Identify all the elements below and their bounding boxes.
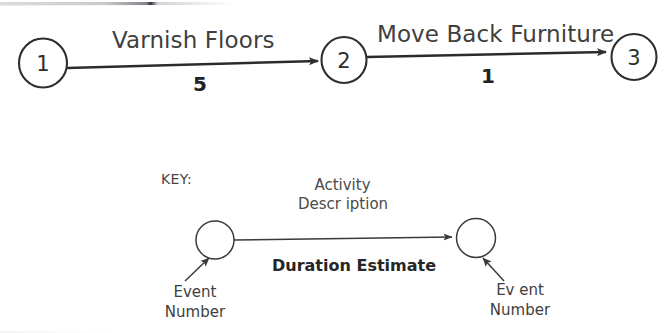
key-heading: KEY: — [161, 172, 192, 187]
legend-left-event-number-line2: Number — [158, 305, 232, 321]
legend-left-event-number-line1: Event — [166, 285, 224, 301]
legend-duration-estimate: Duration Estimate — [272, 258, 436, 275]
activity-label-move-back-furniture: Move Back Furniture — [377, 23, 614, 47]
duration-label-move-back-furniture: 1 — [481, 66, 495, 87]
legend-right-event-number-line1: Ev ent — [489, 283, 551, 299]
legend-left-event-pointer — [185, 258, 209, 281]
activity-arrow-2-to-3[interactable] — [367, 52, 606, 57]
legend-activity-arrow — [234, 237, 452, 240]
legend-right-event-pointer — [483, 258, 504, 281]
activity-arrow-1-to-2[interactable] — [67, 61, 318, 68]
legend-right-event-circle — [457, 219, 496, 258]
event-node-3-label: 3 — [620, 46, 648, 70]
legend-activity-description-line1: Activity — [305, 178, 380, 194]
duration-label-varnish-floors: 5 — [193, 74, 207, 95]
activity-label-varnish-floors: Varnish Floors — [112, 29, 275, 53]
event-node-1-label: 1 — [29, 52, 57, 76]
diagram-canvas: 1 2 3 Varnish Floors Move Back Furniture… — [0, 0, 671, 333]
event-node-2-label: 2 — [330, 49, 358, 73]
legend-left-event-circle — [196, 221, 234, 259]
legend-activity-description-line2: Descr iption — [294, 197, 392, 213]
legend-right-event-number-line2: Number — [483, 303, 557, 319]
